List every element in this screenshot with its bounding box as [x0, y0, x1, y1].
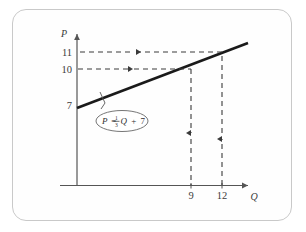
callout-leader-line: [100, 92, 105, 109]
y-tick-label-10: 10: [62, 64, 73, 75]
equation-slope-numerator: 1: [115, 115, 118, 121]
equation-plus: +: [131, 116, 136, 126]
figure-screenshot: P Q 11 10 7 9 12 P =: [0, 0, 306, 232]
y-tick-label-11: 11: [62, 47, 72, 58]
x-tick-label-12: 12: [217, 190, 228, 201]
x-tick-label-9: 9: [188, 190, 193, 201]
equation-slope-denominator: 3: [115, 122, 118, 128]
y-axis-label: P: [60, 28, 67, 39]
x-axis-label: Q: [250, 191, 258, 202]
y-tick-label-7: 7: [67, 100, 72, 111]
equation-variable: Q: [121, 116, 128, 126]
equation-lhs: P: [101, 116, 108, 126]
supply-curve-chart: P Q 11 10 7 9 12 P =: [0, 0, 306, 232]
equation-intercept: 7: [141, 116, 146, 126]
svg-text:Q + 7: Q + 7: [121, 116, 146, 126]
